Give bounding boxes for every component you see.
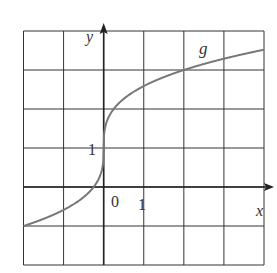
y-axis-label: y <box>84 28 94 46</box>
x-axis-label: x <box>255 202 263 219</box>
axes <box>24 23 275 265</box>
x-tick-1-label: 1 <box>138 196 146 213</box>
origin-label: 0 <box>111 193 119 210</box>
grid <box>24 31 265 265</box>
graph: y x g 0 1 1 <box>0 0 277 273</box>
curve-label: g <box>199 39 208 58</box>
y-tick-1-label: 1 <box>88 141 96 158</box>
